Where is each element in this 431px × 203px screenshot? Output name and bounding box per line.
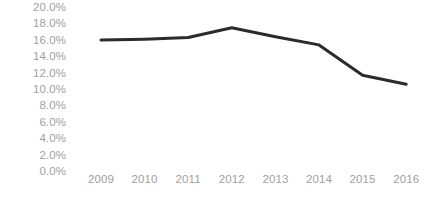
- x-axis-tick-label: 2012: [209, 173, 255, 185]
- x-axis-tick-label: 2011: [165, 173, 211, 185]
- x-axis-tick-label: 2013: [252, 173, 298, 185]
- x-axis-tick-label: 2016: [383, 173, 429, 185]
- x-axis-tick-label: 2009: [78, 173, 124, 185]
- x-axis: 20092010201120122013201420152016: [0, 0, 431, 203]
- x-axis-tick-label: 2010: [122, 173, 168, 185]
- line-chart: 20.0%18.0%16.0%14.0%12.0%10.0%8.0%6.0%4.…: [0, 0, 431, 203]
- x-axis-tick-label: 2015: [340, 173, 386, 185]
- x-axis-tick-label: 2014: [296, 173, 342, 185]
